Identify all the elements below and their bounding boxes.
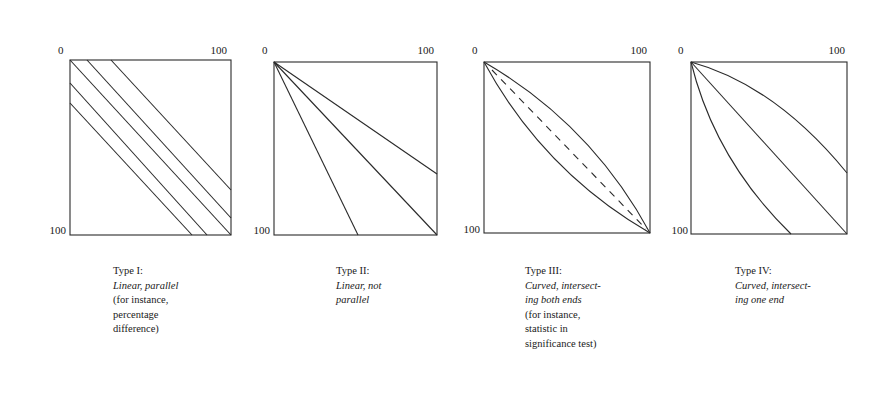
- fan-line-shallow: [274, 62, 437, 174]
- caption-description: Linear, parallel: [113, 279, 178, 294]
- parallel-line-5: [70, 103, 192, 235]
- axis-label-x-max: 100: [418, 44, 435, 56]
- straight-diagonal: [691, 62, 847, 234]
- function-types-diagram: 0 100 100 0 100 100 0 100 100 0 100 100: [0, 0, 896, 400]
- axis-label-x-max: 100: [631, 44, 648, 56]
- caption-description: parallel: [336, 293, 382, 308]
- caption-description: Curved, intersect-: [735, 279, 811, 294]
- caption-example: (for instance,: [525, 308, 601, 323]
- caption-example: significance test): [525, 337, 601, 352]
- upper-curve: [691, 62, 847, 173]
- dashed-diagonal: [492, 70, 646, 229]
- axis-label-y-max: 100: [464, 223, 481, 235]
- axis-label-y-max: 100: [50, 224, 67, 236]
- fan-line-diagonal: [274, 62, 437, 235]
- caption-type-1: Type I: Linear, parallel (for instance, …: [113, 264, 178, 337]
- caption-description: ing one end: [735, 293, 811, 308]
- caption-type-2: Type II: Linear, not parallel: [336, 264, 382, 308]
- lower-curve: [691, 62, 791, 234]
- caption-description: Curved, intersect-: [525, 279, 601, 294]
- panel-type-4: 0 100 100: [672, 44, 848, 236]
- axis-label-origin: 0: [472, 44, 478, 56]
- caption-example: percentage: [113, 308, 178, 323]
- panel-type-3: 0 100 100: [464, 44, 651, 235]
- caption-title: Type IV:: [735, 264, 811, 279]
- axis-label-origin: 0: [58, 44, 64, 56]
- axis-label-x-max: 100: [211, 44, 228, 56]
- caption-title: Type II:: [336, 264, 382, 279]
- axis-label-origin: 0: [678, 44, 684, 56]
- caption-example: difference): [113, 322, 178, 337]
- caption-example: (for instance,: [113, 293, 178, 308]
- caption-type-4: Type IV: Curved, intersect- ing one end: [735, 264, 811, 308]
- parallel-line-3: [70, 60, 231, 235]
- panel-type-2: 0 100 100: [254, 44, 438, 236]
- parallel-line-2: [87, 60, 231, 218]
- caption-type-3: Type III: Curved, intersect- ing both en…: [525, 264, 601, 351]
- caption-description: ing both ends: [525, 293, 601, 308]
- axis-label-y-max: 100: [672, 224, 689, 236]
- caption-title: Type I:: [113, 264, 178, 279]
- caption-description: Linear, not: [336, 279, 382, 294]
- axis-label-origin: 0: [262, 44, 268, 56]
- axis-label-x-max: 100: [829, 44, 846, 56]
- parallel-line-4: [70, 83, 207, 235]
- caption-title: Type III:: [525, 264, 601, 279]
- panel-type-1: 0 100 100: [50, 44, 232, 236]
- caption-example: statistic in: [525, 322, 601, 337]
- fan-line-steep: [274, 62, 358, 235]
- axis-label-y-max: 100: [254, 224, 271, 236]
